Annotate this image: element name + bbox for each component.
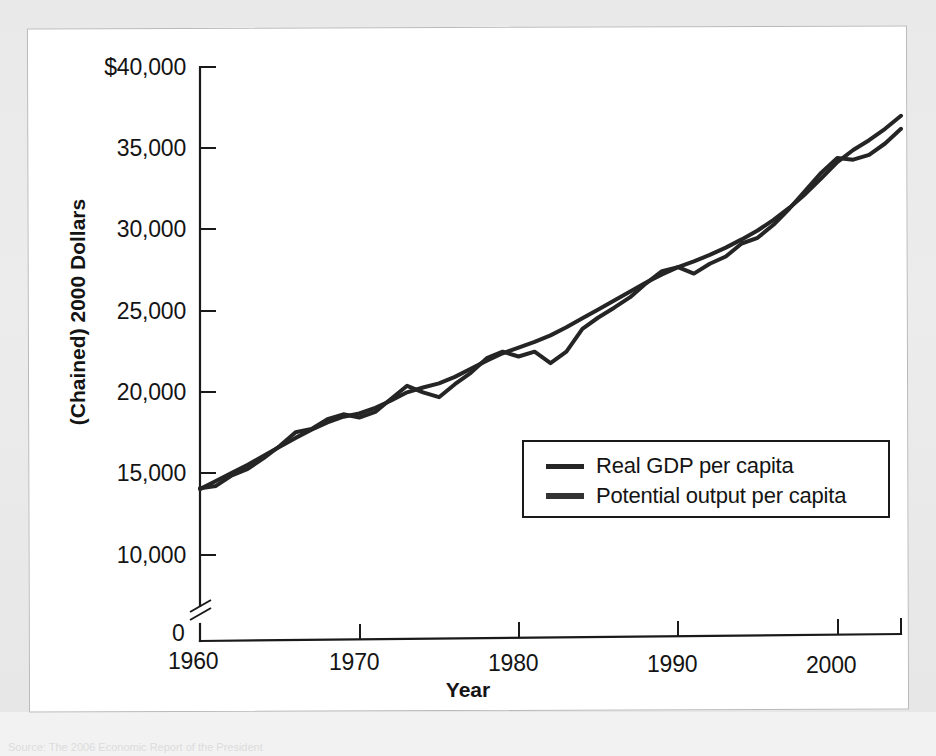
y-tick-label-15000: 15,000 [58,460,186,487]
x-tick-label-1980: 1980 [488,650,538,677]
y-tick-label-10000: 10,000 [58,542,186,569]
x-tick-label-2000: 2000 [806,652,856,679]
chart-legend: Real GDP per capita Potential output per… [522,440,890,518]
legend-item-real-gdp[interactable]: Real GDP per capita [524,451,888,481]
x-tick-label-1960: 1960 [168,648,218,675]
y-axis-title: (Chained) 2000 Dollars [66,172,90,452]
cut-off-source-caption: Source: The 2006 Economic Report of the … [8,740,428,754]
y-tick-label-35000: 35,000 [58,135,186,162]
legend-label-real-gdp: Real GDP per capita [596,453,794,479]
x-tick-label-1970: 1970 [329,649,379,676]
y-tick-label-zero: 0 [172,620,185,647]
x-axis-title: Year [0,678,936,702]
legend-item-potential-output[interactable]: Potential output per capita [524,481,888,511]
figure-card [27,26,909,713]
legend-swatch-icon-potential-output [546,493,584,499]
x-tick-label-1990: 1990 [647,651,697,678]
legend-swatch-icon-real-gdp [546,464,584,469]
y-tick-label-40000: $40,000 [58,54,186,81]
legend-label-potential-output: Potential output per capita [596,483,846,509]
